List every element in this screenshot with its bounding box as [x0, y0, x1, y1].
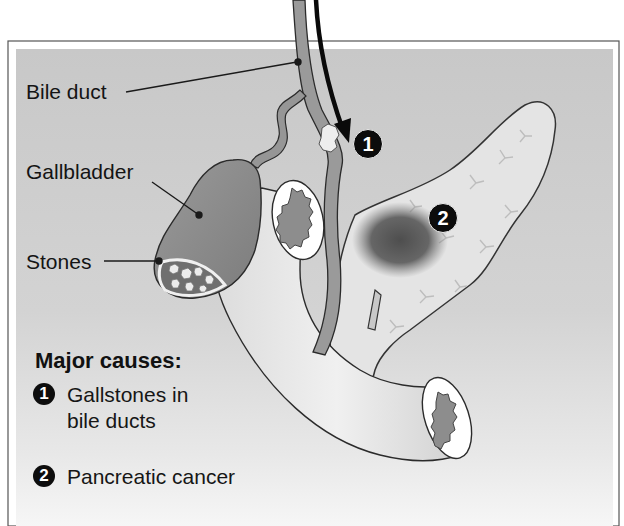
marker-1: 1 [353, 129, 383, 159]
label-gallbladder: Gallbladder [26, 161, 133, 182]
legend-badge-1: 1 [33, 383, 55, 405]
duct-stone [319, 124, 339, 152]
anatomy-illustration [0, 0, 624, 526]
diagram-canvas: Bile duct Gallbladder Stones 1 2 Major c… [0, 0, 624, 526]
legend-item-2: 2 Pancreatic cancer [33, 464, 235, 490]
marker-2: 2 [428, 203, 458, 233]
legend-badge-2: 2 [33, 465, 55, 487]
legend-title: Major causes: [35, 348, 182, 374]
legend-text-1: Gallstones in bile ducts [67, 382, 188, 433]
label-stones: Stones [26, 251, 91, 272]
legend-text-2: Pancreatic cancer [67, 464, 235, 490]
legend-text-1-line1: Gallstones in [67, 383, 188, 406]
legend-text-1-line2: bile ducts [67, 409, 156, 432]
legend-item-1: 1 Gallstones in bile ducts [33, 382, 188, 433]
label-bile-duct: Bile duct [26, 81, 107, 102]
